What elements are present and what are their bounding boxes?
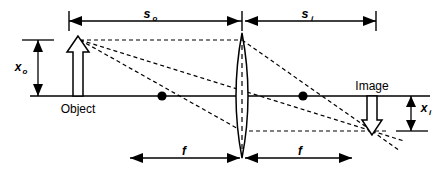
ray-parallel-extended xyxy=(372,131,400,151)
dimension-object-height: x o xyxy=(14,40,54,96)
ray-center-line xyxy=(80,40,372,131)
dimension-focal-length-right: f xyxy=(245,144,352,163)
diagram-canvas: s o s i xyxy=(0,0,436,173)
dimension-object-distance: s o xyxy=(69,7,242,31)
ray-center-extended xyxy=(372,131,404,141)
dimension-image-distance: s i xyxy=(242,7,376,31)
label-object-distance: s xyxy=(144,7,151,21)
object-arrow-up xyxy=(67,36,89,96)
label-image-height: x xyxy=(420,101,429,115)
label-image: Image xyxy=(355,79,389,93)
ray-parallel-refracted xyxy=(242,40,372,131)
dim-arrowhead-top-xi xyxy=(406,96,416,107)
dim-arrowhead-left-si xyxy=(245,16,258,26)
label-image-distance: s xyxy=(302,7,309,21)
dimension-image-height: x i xyxy=(396,96,432,131)
dim-arrowhead-left-f-right xyxy=(245,153,258,163)
dim-arrowhead-left-so xyxy=(69,16,82,26)
focal-point-right xyxy=(298,91,307,100)
image-arrow-down xyxy=(362,96,382,135)
converging-lens xyxy=(236,33,248,158)
focal-point-left xyxy=(157,91,166,100)
dim-arrowhead-right-si xyxy=(363,16,376,26)
label-object-distance-subscript: o xyxy=(153,14,158,23)
label-image-height-subscript: i xyxy=(429,108,432,117)
dim-arrowhead-top-xo xyxy=(33,40,43,52)
optics-ray-diagram: s o s i xyxy=(0,0,436,173)
dim-arrowhead-right-f-right xyxy=(339,153,352,163)
dim-arrowhead-bottom-xo xyxy=(33,84,43,96)
dim-arrowhead-right-f-left xyxy=(227,153,240,163)
label-object: Object xyxy=(61,102,96,116)
dimension-focal-length-left: f xyxy=(130,144,240,163)
dim-arrowhead-left-f-left xyxy=(130,153,143,163)
label-focal-length-right: f xyxy=(298,144,303,158)
label-object-height: x xyxy=(14,60,23,74)
ray-through-focal-point xyxy=(80,40,386,131)
image-arrow-shape xyxy=(362,96,382,135)
label-object-height-subscript: o xyxy=(23,67,28,76)
object-arrow-shape xyxy=(67,36,89,96)
label-focal-length-left: f xyxy=(182,144,187,158)
ray-focal-incident xyxy=(80,40,242,131)
dim-arrowhead-right-so xyxy=(227,16,240,26)
dim-arrowhead-bottom-xi xyxy=(406,120,416,131)
